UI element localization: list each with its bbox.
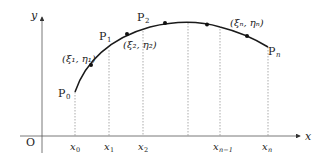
sample-point-1-label: (ξ₁, η₁) (62, 53, 96, 64)
svg-text:1: 1 (107, 36, 111, 44)
svg-text:2: 2 (144, 146, 148, 154)
svg-text:P: P (137, 11, 145, 24)
x-axis-label: x (305, 130, 312, 143)
point-p2-label: P 2 (137, 11, 149, 25)
sample-point-n-label: (ξₙ, ηₙ) (230, 17, 264, 28)
svg-text:2: 2 (145, 17, 149, 25)
svg-text:0: 0 (76, 146, 80, 154)
y-axis-label: y (30, 9, 38, 22)
svg-text:1: 1 (110, 146, 114, 154)
svg-text:P: P (58, 87, 66, 100)
point-p0-label: P 0 (58, 87, 70, 101)
svg-text:P: P (99, 30, 107, 43)
tick-xn-1: x n−1 (213, 141, 233, 154)
tick-x1: x 1 (104, 141, 114, 154)
tick-x2: x 2 (138, 141, 148, 154)
svg-text:n: n (268, 146, 272, 154)
point-p1-label: P 1 (99, 30, 111, 44)
svg-text:P: P (268, 45, 276, 58)
tick-xn: x n (262, 141, 272, 154)
svg-text:n: n (276, 51, 281, 59)
sample-point-2-label: (ξ₂, η₂) (123, 39, 157, 50)
tick-x0: x 0 (70, 141, 80, 154)
point-pn-label: P n (268, 45, 281, 59)
svg-text:n−1: n−1 (219, 146, 233, 154)
svg-text:0: 0 (66, 93, 70, 101)
origin-label: O (26, 136, 35, 149)
arc-length-diagram: y x O P 0 P 1 P 2 P n (ξ₁, η₁) (ξ₂, η₂) … (0, 0, 327, 161)
